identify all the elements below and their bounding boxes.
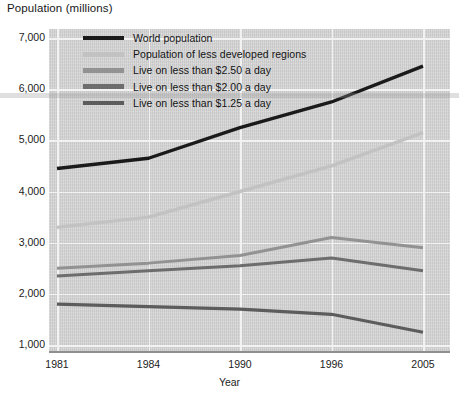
legend-swatch (83, 68, 124, 73)
legend-swatch (83, 36, 124, 41)
y-tick-label: 7,000 (3, 31, 45, 43)
y-tick-label: 6,000 (3, 82, 45, 94)
legend-swatch (83, 52, 124, 57)
x-tick-label: 1996 (302, 358, 362, 370)
x-tick-label: 2005 (393, 358, 453, 370)
legend-label: Live on less than $2.00 a day (133, 81, 271, 93)
series-line (57, 304, 423, 332)
legend-swatch (83, 84, 124, 89)
x-tick-label: 1984 (119, 358, 179, 370)
y-tick-label: 4,000 (3, 185, 45, 197)
legend: World populationPopulation of less devel… (83, 30, 306, 111)
legend-label: Live on less than $1.25 a day (133, 97, 271, 109)
y-tick-label: 3,000 (3, 236, 45, 248)
legend-item: Live on less than $1.25 a day (83, 95, 306, 111)
population-line-chart: Population (millions) 7,0006,0005,0004,0… (0, 0, 459, 397)
x-tick-label: 1981 (27, 358, 87, 370)
legend-swatch (83, 101, 124, 106)
legend-item: Population of less developed regions (83, 46, 306, 62)
y-tick-label: 2,000 (3, 287, 45, 299)
legend-item: Live on less than $2.00 a day (83, 79, 306, 95)
x-axis-title: Year (0, 376, 459, 388)
y-tick-label: 5,000 (3, 133, 45, 145)
series-line (57, 258, 423, 276)
legend-item: World population (83, 30, 306, 46)
legend-label: Live on less than $2.50 a day (133, 64, 271, 76)
legend-label: Population of less developed regions (133, 48, 306, 60)
legend-label: World population (133, 32, 212, 44)
legend-item: Live on less than $2.50 a day (83, 62, 306, 78)
x-axis-line (49, 351, 450, 353)
x-tick-label: 1990 (210, 358, 270, 370)
y-axis-tick-labels: 7,0006,0005,0004,0003,0002,0001,000 (0, 0, 45, 397)
y-tick-label: 1,000 (3, 338, 45, 350)
series-line (57, 133, 423, 228)
